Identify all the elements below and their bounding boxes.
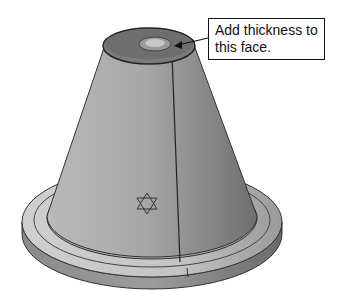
callout-label: Add thickness to this face. bbox=[208, 18, 325, 60]
cone-body bbox=[47, 45, 257, 257]
cad-figure: Add thickness to this face. bbox=[0, 0, 344, 299]
